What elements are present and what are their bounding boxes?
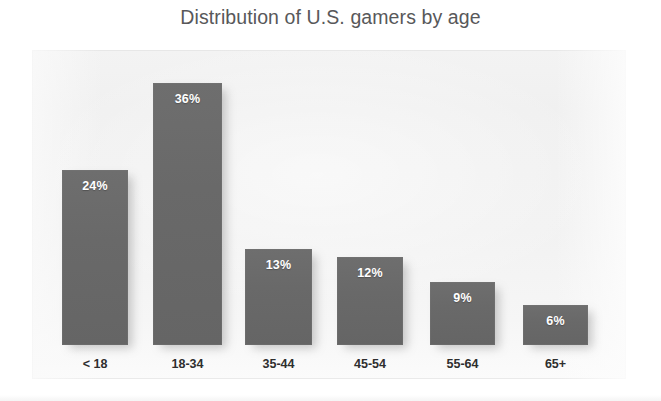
bar-group-55-64[interactable]: 9% 55-64 (430, 282, 495, 345)
bar-rect[interactable]: 12% (337, 257, 403, 345)
page-bottom-edge (0, 395, 661, 401)
category-label: 55-64 (430, 357, 495, 371)
bar-chart-figure: Distribution of U.S. gamers by age 24% <… (0, 0, 661, 401)
bar-value-label: 36% (153, 92, 222, 106)
bar-rect[interactable]: 9% (430, 282, 495, 345)
bar-value-label: 9% (430, 291, 495, 305)
bar-value-label: 6% (523, 314, 588, 328)
bars-layer: 24% < 18 36% 18-34 13% 35-44 12% (32, 50, 626, 379)
category-label: 45-54 (337, 357, 403, 371)
plot-area: 24% < 18 36% 18-34 13% 35-44 12% (32, 50, 626, 379)
bar-group-35-44[interactable]: 13% 35-44 (245, 249, 312, 345)
category-label: 35-44 (245, 357, 312, 371)
bar-group-under-18[interactable]: 24% < 18 (62, 170, 128, 345)
bar-value-label: 12% (337, 266, 403, 280)
bar-rect[interactable]: 36% (153, 83, 222, 345)
bar-group-18-34[interactable]: 36% 18-34 (153, 83, 222, 345)
category-label: 18-34 (153, 357, 222, 371)
bar-rect[interactable]: 6% (523, 305, 588, 345)
bar-rect[interactable]: 13% (245, 249, 312, 345)
bar-value-label: 24% (62, 179, 128, 193)
category-label: < 18 (62, 357, 128, 371)
bar-group-65-plus[interactable]: 6% 65+ (523, 305, 588, 345)
bar-value-label: 13% (245, 258, 312, 272)
chart-title: Distribution of U.S. gamers by age (0, 6, 661, 29)
bar-group-45-54[interactable]: 12% 45-54 (337, 257, 403, 345)
category-label: 65+ (523, 357, 588, 371)
bar-rect[interactable]: 24% (62, 170, 128, 345)
